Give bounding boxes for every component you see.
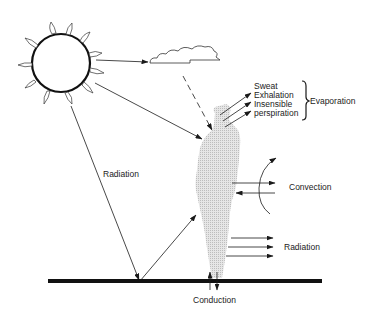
- perspiration-label: perspiration: [254, 109, 298, 118]
- human-silhouette: [196, 104, 241, 278]
- body-radiation-arrows: [226, 238, 273, 256]
- radiation-sun-label: Radiation: [103, 170, 139, 179]
- evaporation-brace: [302, 81, 309, 120]
- radiation-body-label: Radiation: [284, 243, 320, 252]
- conduction-label: Conduction: [193, 296, 236, 305]
- ground-line: [48, 279, 322, 283]
- convection-arrows: [232, 158, 276, 214]
- cloud-to-head-dashed-arrow: [183, 76, 212, 130]
- convection-label: Convection: [289, 183, 332, 192]
- sun-icon: [18, 22, 104, 104]
- evaporation-label: Evaporation: [310, 97, 355, 106]
- sun-to-ground-arrow: [71, 106, 139, 280]
- sun-to-body-arrow: [95, 83, 202, 139]
- sun-to-cloud-arrow: [96, 60, 148, 62]
- heat-exchange-diagram: [0, 0, 367, 322]
- cloud-icon: [150, 46, 220, 63]
- ground-reflection-arrow: [140, 215, 196, 281]
